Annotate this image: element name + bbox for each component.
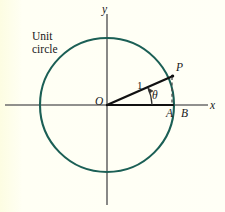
- origin-label: O: [95, 96, 103, 108]
- point-a-label: A: [166, 108, 173, 120]
- point-p-marker: [171, 74, 174, 77]
- unit-circle-label-line2: circle: [32, 43, 58, 55]
- y-axis-label: y: [102, 4, 107, 16]
- unit-circle-label-line1: Unit: [32, 30, 52, 42]
- unit-circle-label: Unit circle: [32, 30, 58, 55]
- x-axis-label: x: [210, 100, 215, 112]
- unit-circle-figure: Unit circle y x O 1 P A B θ: [0, 0, 225, 212]
- angle-theta-label: θ: [152, 90, 158, 102]
- radius-length-label: 1: [137, 80, 143, 91]
- point-b-label: B: [181, 108, 188, 120]
- point-p-label: P: [176, 62, 183, 74]
